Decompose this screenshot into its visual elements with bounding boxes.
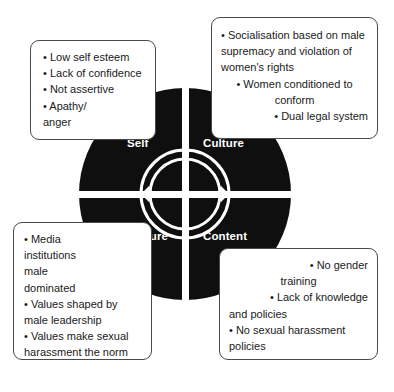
bullet-item: • Values make sexual xyxy=(24,328,145,344)
bullet-item: • No gender xyxy=(229,257,368,273)
bullet-item: • Apathy/ xyxy=(43,98,149,114)
content-list: • No gendertraining• Lack of knowledgean… xyxy=(229,257,368,354)
bullet-item: • Lack of knowledge xyxy=(229,289,368,305)
bullet-item-continuation: male xyxy=(24,263,145,279)
bullet-item-continuation: institutions xyxy=(24,247,145,263)
bullet-item-continuation: anger xyxy=(43,114,149,130)
bullet-item-continuation: conform xyxy=(221,92,368,108)
callout-box-culture: • Socialisation based on malesupremacy a… xyxy=(211,17,378,139)
callout-box-content: • No gendertraining• Lack of knowledgean… xyxy=(219,248,378,360)
bullet-item: • Media xyxy=(24,231,145,247)
bullet-item-continuation: supremacy and violation of xyxy=(221,43,368,59)
bullet-item: • Socialisation based on male xyxy=(221,27,368,43)
quadrant-label-content: Content xyxy=(203,230,247,242)
bullet-item-continuation: training xyxy=(229,273,368,289)
bullet-item: • No sexual harassment xyxy=(229,322,368,338)
bullet-item: • Values shaped by xyxy=(24,296,145,312)
self-list: • Low self esteem• Lack of confidence• N… xyxy=(43,49,149,130)
bullet-item-continuation: harassment the norm xyxy=(24,344,145,360)
callout-box-structure: • Mediainstitutionsmaledominated• Values… xyxy=(13,222,152,360)
bullet-item-continuation: dominated xyxy=(24,280,145,296)
callout-box-self: • Low self esteem• Lack of confidence• N… xyxy=(30,40,156,140)
bullet-item-continuation: women's rights xyxy=(221,59,368,75)
bullet-item: • Not assertive xyxy=(43,81,149,97)
bullet-item-continuation: male leadership xyxy=(24,312,145,328)
bullet-item: • Dual legal system xyxy=(221,108,368,124)
structure-list: • Mediainstitutionsmaledominated• Values… xyxy=(24,231,145,361)
bullet-item-continuation: and policies xyxy=(229,306,368,322)
bullet-item: • Women conditioned to xyxy=(221,76,368,92)
bullet-item: • Low self esteem xyxy=(43,49,149,65)
gender-analysis-wheel-diagram: Self Culture Structure Content • Low sel… xyxy=(0,0,394,392)
culture-list: • Socialisation based on malesupremacy a… xyxy=(221,27,368,124)
bullet-item-continuation: policies xyxy=(229,338,368,354)
bullet-item: • Lack of confidence xyxy=(43,65,149,81)
